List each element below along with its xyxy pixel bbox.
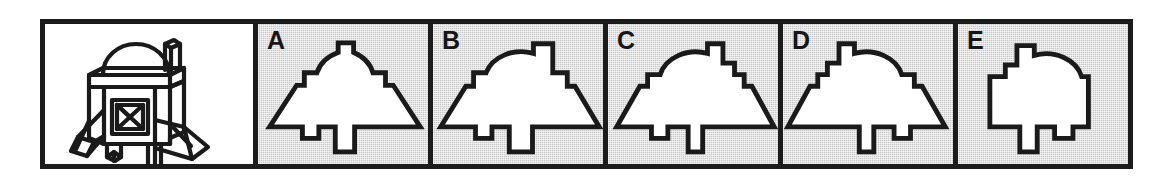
option-shape-b bbox=[433, 24, 603, 164]
mental-rotation-question-figure: A B C D E bbox=[40, 19, 1133, 169]
option-panel-c[interactable]: C bbox=[603, 24, 778, 164]
option-shape-c bbox=[608, 24, 778, 164]
option-panel-e[interactable]: E bbox=[953, 24, 1128, 164]
option-panel-a[interactable]: A bbox=[253, 24, 428, 164]
stimulus-object-icon bbox=[45, 24, 253, 164]
option-shape-d bbox=[783, 24, 953, 164]
option-panel-d[interactable]: D bbox=[778, 24, 953, 164]
option-panel-b[interactable]: B bbox=[428, 24, 603, 164]
option-shape-e bbox=[958, 24, 1128, 164]
option-shape-a bbox=[258, 24, 428, 164]
stimulus-panel bbox=[45, 24, 253, 164]
